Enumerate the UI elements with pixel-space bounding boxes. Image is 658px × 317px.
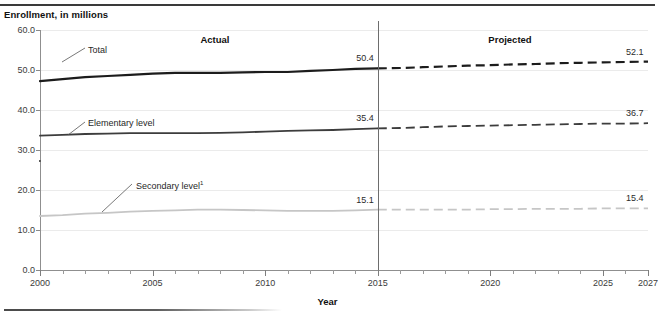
value-label-end: 15.4	[626, 193, 644, 203]
series-line-actual	[40, 210, 378, 216]
period-label: Actual	[200, 34, 229, 45]
x-tick-minor	[243, 270, 244, 274]
series-line-projected	[378, 62, 648, 69]
value-label-end: 52.1	[626, 47, 644, 57]
x-tick-label: 2015	[368, 278, 388, 288]
x-tick-minor	[468, 270, 469, 274]
x-tick-major	[648, 270, 649, 276]
x-tick-minor	[580, 270, 581, 274]
x-tick-minor	[355, 270, 356, 274]
y-tick-label: 10.0	[17, 225, 35, 235]
x-tick-label: 2000	[30, 278, 50, 288]
x-tick-minor	[130, 270, 131, 274]
x-tick-label: 2027	[638, 278, 658, 288]
x-tick-label: 2005	[143, 278, 163, 288]
stray-mark	[39, 160, 41, 162]
x-tick-major	[603, 270, 604, 276]
x-tick-label: 2010	[255, 278, 275, 288]
plot-area: 0.010.020.030.040.050.060.0 200020052010…	[40, 30, 648, 270]
actual-projected-divider	[378, 21, 379, 270]
callout-label-total: Total	[88, 45, 107, 55]
x-tick-minor	[400, 270, 401, 274]
y-tick-label: 40.0	[17, 105, 35, 115]
value-label-split: 15.1	[356, 195, 374, 205]
y-tick-label: 20.0	[17, 185, 35, 195]
x-tick-minor	[333, 270, 334, 274]
y-tick-label: 30.0	[17, 145, 35, 155]
x-tick-minor	[108, 270, 109, 274]
y-axis-title: Enrollment, in millions	[4, 9, 108, 20]
x-tick-minor	[63, 270, 64, 274]
series-lines	[40, 30, 648, 270]
x-tick-minor	[445, 270, 446, 274]
value-label-split: 50.4	[356, 53, 374, 63]
x-tick-major	[153, 270, 154, 276]
footnote-marker: 1	[200, 180, 203, 186]
value-label-end: 36.7	[626, 108, 644, 118]
y-tick-label: 50.0	[17, 65, 35, 75]
x-tick-minor	[288, 270, 289, 274]
x-axis-line	[40, 270, 648, 271]
series-line-projected	[378, 123, 648, 128]
bottom-divider-rule	[4, 309, 282, 311]
x-tick-major	[378, 270, 379, 276]
callout-leader-secondary	[102, 184, 132, 212]
series-line-actual	[40, 128, 378, 135]
callout-leader-total	[62, 48, 85, 62]
series-line-projected	[378, 208, 648, 209]
x-tick-minor	[198, 270, 199, 274]
value-label-split: 35.4	[356, 113, 374, 123]
series-line-actual	[40, 68, 378, 81]
x-axis-title: Year	[0, 296, 655, 307]
x-tick-minor	[220, 270, 221, 274]
x-tick-minor	[85, 270, 86, 274]
x-tick-minor	[535, 270, 536, 274]
x-tick-major	[265, 270, 266, 276]
y-tick-label: 0.0	[22, 265, 35, 275]
x-tick-minor	[175, 270, 176, 274]
period-label: Projected	[488, 34, 531, 45]
x-tick-minor	[310, 270, 311, 274]
callout-leader-elementary	[68, 122, 85, 135]
x-tick-minor	[558, 270, 559, 274]
y-tick-label: 60.0	[17, 25, 35, 35]
x-tick-major	[490, 270, 491, 276]
x-tick-label: 2020	[480, 278, 500, 288]
x-tick-minor	[423, 270, 424, 274]
callout-label-elementary: Elementary level	[88, 118, 155, 128]
callout-label-secondary: Secondary level1	[136, 180, 203, 191]
top-divider-rule	[0, 4, 655, 6]
x-tick-minor	[513, 270, 514, 274]
x-tick-major	[40, 270, 41, 276]
x-tick-label: 2025	[593, 278, 613, 288]
x-tick-minor	[625, 270, 626, 274]
